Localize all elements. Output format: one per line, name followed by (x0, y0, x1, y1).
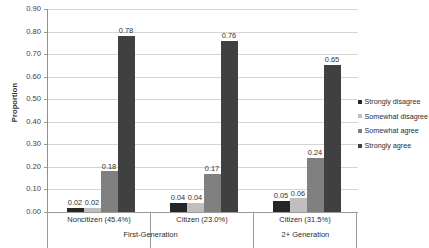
legend: Strongly disagreeSomewhat disagreeSomewh… (358, 98, 429, 157)
bar-chart: Proportion 0.900.800.700.600.500.400.300… (0, 0, 429, 248)
bar-value-label: 0.06 (291, 190, 305, 197)
category-label: Noncitizen (45.4%) (67, 216, 130, 225)
legend-label: Somewhat disagree (365, 113, 429, 120)
bar-value-label: 0.76 (222, 32, 236, 39)
bar-set: 0.040.040.170.76 (152, 9, 255, 212)
legend-label: Strongly agree (365, 142, 412, 149)
bar-column: 0.04 (170, 9, 187, 212)
bar[interactable] (170, 203, 187, 212)
y-tick-label: 0.20 (8, 163, 41, 171)
bar-column: 0.24 (307, 9, 324, 212)
y-tick-label: 0.80 (8, 28, 41, 36)
bar-group: 0.040.040.170.76 (152, 9, 255, 212)
bar-value-label: 0.65 (325, 56, 339, 63)
bar-value-label: 0.02 (85, 199, 99, 206)
bar-column: 0.78 (118, 9, 135, 212)
bar[interactable] (118, 36, 135, 212)
bar-value-label: 0.24 (308, 149, 322, 156)
plot-area: 0.020.020.180.780.040.040.170.760.050.06… (47, 9, 357, 212)
y-tick-label: 0.40 (8, 118, 41, 126)
bar-value-label: 0.78 (119, 27, 133, 34)
bar-value-label: 0.04 (171, 194, 185, 201)
bar-column: 0.04 (187, 9, 204, 212)
bar-column: 0.05 (273, 9, 290, 212)
bar-column: 0.65 (324, 9, 341, 212)
category-label: Citizen (23.0%) (176, 216, 227, 225)
legend-swatch-icon (358, 100, 362, 104)
bar[interactable] (307, 158, 324, 212)
bar[interactable] (101, 171, 118, 212)
legend-item[interactable]: Strongly agree (358, 142, 429, 149)
legend-label: Strongly disagree (365, 98, 421, 105)
generation-tier-label: First-Generation (124, 230, 178, 239)
legend-item[interactable]: Somewhat agree (358, 127, 429, 134)
bar-column: 0.02 (84, 9, 101, 212)
bar-value-label: 0.18 (102, 163, 116, 170)
bar-value-label: 0.05 (274, 192, 288, 199)
legend-item[interactable]: Strongly disagree (358, 98, 429, 105)
bar-value-label: 0.04 (188, 194, 202, 201)
bar-value-label: 0.17 (205, 165, 219, 172)
generation-tier-label: 2+ Generation (282, 230, 330, 239)
y-tick-label: 0.30 (8, 140, 41, 148)
bar[interactable] (221, 41, 238, 212)
category-label: Citizen (31.5%) (279, 216, 330, 225)
legend-label: Somewhat agree (365, 127, 419, 134)
bar[interactable] (273, 201, 290, 212)
category-axis-labels: Noncitizen (45.4%)Citizen (23.0%)Citizen… (47, 212, 357, 248)
y-tick-label: 0.90 (8, 5, 41, 13)
bar-set: 0.050.060.240.65 (255, 9, 358, 212)
bar[interactable] (324, 65, 341, 212)
bar-group: 0.020.020.180.78 (49, 9, 152, 212)
bar-value-label: 0.02 (68, 199, 82, 206)
legend-swatch-icon (358, 129, 362, 133)
legend-swatch-icon (358, 114, 362, 118)
y-tick-label: 0.60 (8, 73, 41, 81)
y-tick-label: 0.50 (8, 95, 41, 103)
y-tick-label: 0.00 (8, 208, 41, 216)
bar-group: 0.050.060.240.65 (255, 9, 358, 212)
bar[interactable] (290, 198, 307, 212)
bar-column: 0.18 (101, 9, 118, 212)
bar-set: 0.020.020.180.78 (49, 9, 152, 212)
legend-item[interactable]: Somewhat disagree (358, 113, 429, 120)
bar[interactable] (204, 174, 221, 212)
y-tick-label: 0.10 (8, 185, 41, 193)
bar-column: 0.17 (204, 9, 221, 212)
bar-column: 0.06 (290, 9, 307, 212)
bar-groups: 0.020.020.180.780.040.040.170.760.050.06… (49, 9, 358, 212)
bar[interactable] (187, 203, 204, 212)
bar-column: 0.76 (221, 9, 238, 212)
legend-swatch-icon (358, 144, 362, 148)
y-tick-label: 0.70 (8, 50, 41, 58)
bar-column: 0.02 (67, 9, 84, 212)
